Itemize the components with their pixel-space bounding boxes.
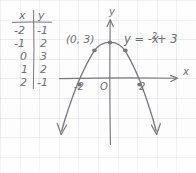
table-cell-y: -1 [37, 24, 48, 37]
x-axis-label: x [182, 66, 189, 77]
equation-label: y = -x 2 + 3 [123, 32, 178, 47]
table-row: -2 -1 [14, 24, 48, 37]
x-axis-line [60, 78, 177, 79]
table-cell-x: -2 [14, 24, 25, 37]
value-table: x y -2 -1 -1 2 0 3 1 2 [13, 9, 52, 89]
parabola-right-branch [110, 42, 156, 131]
equation-tail: + 3 [157, 32, 178, 46]
y-axis-label: y [108, 6, 116, 17]
table-row: -1 2 [14, 37, 47, 50]
table-cell-x: 1 [21, 63, 28, 76]
table-header-x: x [18, 9, 26, 22]
origin-label: O [100, 81, 108, 92]
hand-drawn-figure: x y -2 -1 -1 2 0 3 1 2 [0, 0, 196, 173]
table-header-y: y [37, 9, 45, 22]
table-cell-y: 2 [40, 63, 47, 76]
plot-point-neg1-2 [92, 49, 97, 53]
plot-point-2-neg1 [137, 83, 142, 87]
table-column-divider [33, 11, 34, 89]
plot-point-neg2-neg1 [77, 83, 82, 87]
coordinate-axes: y x O -2 2 [60, 6, 190, 145]
table-cell-x: 0 [20, 50, 27, 63]
y-axis-line [110, 21, 111, 145]
table-cell-x: 2 [20, 76, 27, 89]
table-cell-y: 2 [40, 37, 47, 50]
plot-point-vertex [108, 41, 112, 45]
table-cell-y: 3 [40, 50, 47, 63]
plot-point-1-2 [123, 49, 128, 53]
table-cell-x: -1 [14, 37, 25, 50]
table-cell-y: -1 [37, 76, 48, 89]
vertex-point-label: (0, 3) [66, 33, 94, 45]
graph-paper-page: x y -2 -1 -1 2 0 3 1 2 [0, 0, 196, 173]
